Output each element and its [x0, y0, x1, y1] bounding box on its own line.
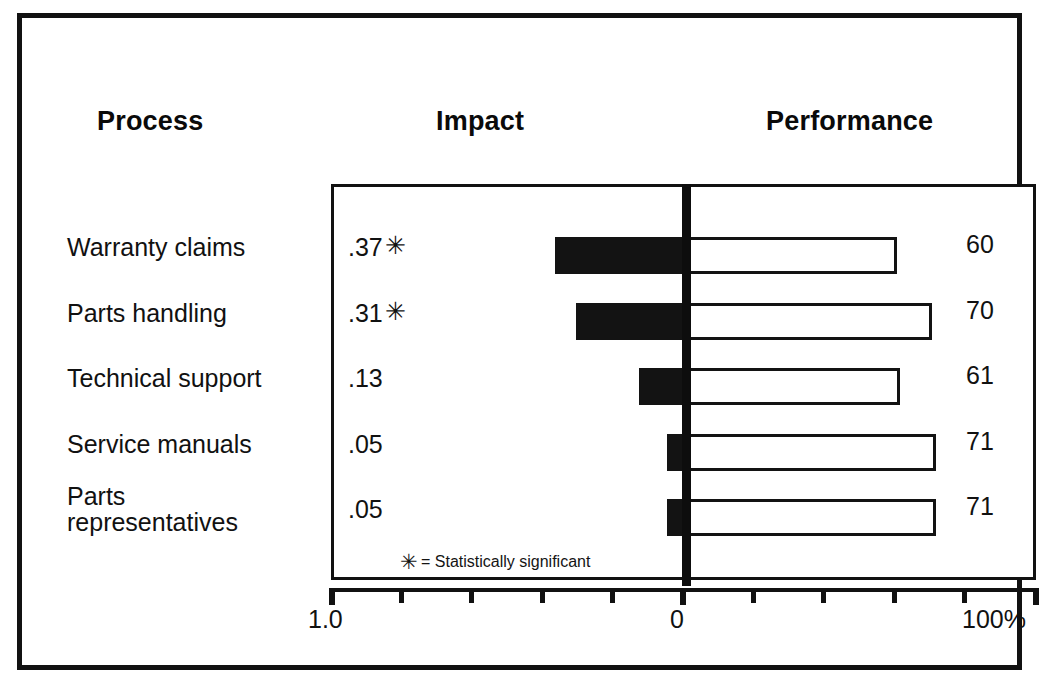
axis-tick-performance — [962, 588, 967, 603]
figure-outer-frame: Process Impact Performance Warranty clai… — [17, 13, 1022, 670]
significance-footnote: ✳= Statistically significant — [400, 550, 590, 574]
impact-bar — [555, 237, 691, 274]
axis-tick-impact — [329, 588, 335, 605]
chart-plot-area: .37✳.31✳.13.05.05 ✳= Statistically signi… — [331, 184, 1036, 580]
axis-label-performance-max: 100% — [962, 605, 1026, 634]
zero-axis-line — [682, 184, 691, 586]
column-header-performance: Performance — [766, 106, 933, 137]
process-label-column: Warranty claimsParts handlingTechnical s… — [67, 184, 317, 580]
asterisk-icon: ✳ — [400, 550, 418, 573]
axis-label-impact-max: 1.0 — [308, 605, 343, 634]
impact-value-label: .13 — [348, 364, 383, 393]
asterisk-icon: ✳ — [385, 231, 406, 259]
axis-tick-impact — [540, 588, 545, 603]
impact-value-label: .37✳ — [348, 233, 406, 262]
process-label: Technical support — [67, 365, 262, 392]
process-label: Warranty claims — [67, 234, 245, 261]
process-row: Technical support — [67, 345, 317, 411]
asterisk-icon: ✳ — [385, 297, 406, 325]
performance-bar — [685, 499, 936, 536]
chart-plot-inner: .37✳.31✳.13.05.05 — [334, 187, 1033, 577]
impact-value-label: .05 — [348, 495, 383, 524]
axis-label-zero: 0 — [670, 605, 684, 634]
impact-value-label: .05 — [348, 430, 383, 459]
impact-bar — [576, 303, 691, 340]
process-label: Parts handling — [67, 300, 227, 327]
column-header-impact: Impact — [436, 106, 524, 137]
axis-tick-impact — [399, 588, 404, 603]
footnote-text: = Statistically significant — [421, 553, 590, 570]
column-header-process: Process — [97, 106, 203, 137]
performance-bar — [685, 434, 936, 471]
axis-tick-impact — [610, 588, 615, 603]
axis-tick-performance — [1033, 588, 1039, 605]
process-label: Service manuals — [67, 431, 252, 458]
performance-value-label: 61 — [966, 361, 994, 390]
performance-bar — [685, 237, 897, 274]
performance-bar — [685, 303, 932, 340]
process-row: Parts representatives — [67, 476, 317, 542]
chart-x-axis — [308, 588, 1041, 604]
process-label: Parts representatives — [67, 483, 238, 536]
performance-value-label: 71 — [966, 427, 994, 456]
performance-bar — [685, 368, 900, 405]
process-row: Service manuals — [67, 411, 317, 477]
performance-value-label: 71 — [966, 492, 994, 521]
performance-value-label: 70 — [966, 296, 994, 325]
axis-tick-impact — [469, 588, 474, 603]
axis-tick-performance — [821, 588, 826, 603]
axis-tick-impact — [680, 588, 686, 605]
axis-tick-performance — [892, 588, 897, 603]
process-row: Parts handling — [67, 280, 317, 346]
axis-tick-performance — [751, 588, 756, 603]
process-row: Warranty claims — [67, 214, 317, 280]
performance-value-label: 60 — [966, 230, 994, 259]
impact-value-label: .31✳ — [348, 299, 406, 328]
